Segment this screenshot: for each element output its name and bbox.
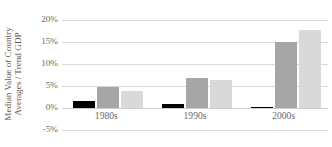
y-axis-title-line-1: Median Value of Country [4,27,13,120]
x-axis-tick-label: 1990s [184,111,207,121]
bar [275,42,297,108]
y-axis-tick-label: 10% [41,59,58,68]
y-axis-tick-label: -5% [43,125,58,134]
gridline [62,130,328,131]
x-axis-tick-label: 1980s [95,111,118,121]
bar [97,87,119,108]
bar [73,101,95,108]
bar [162,104,184,108]
bar [121,91,143,108]
x-axis-tick-label: 2000s [272,111,295,121]
y-axis-tick-label: 5% [46,81,58,90]
bar [210,80,232,108]
x-axis-tick-labels: 1980s1990s2000s [62,111,328,127]
y-axis-tick-labels: 20%15%10%5%0%-5% [28,0,61,147]
y-axis-tick-label: 20% [41,15,58,24]
y-axis-tick-label: 0% [46,103,58,112]
y-axis-title: Median Value of Country Averages / Trend… [0,0,30,147]
y-axis-title-line-2: Averages / Trend GDP [14,32,23,115]
bar [186,78,208,108]
bar [251,107,273,108]
bar [299,30,321,108]
y-axis-tick-label: 15% [41,37,58,46]
bar-chart: Median Value of Country Averages / Trend… [0,0,332,147]
